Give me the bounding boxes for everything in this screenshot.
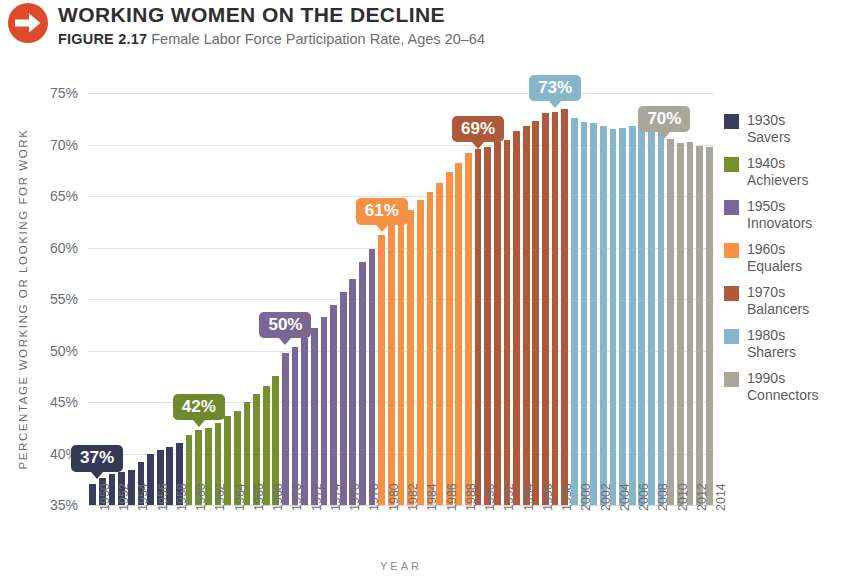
x-axis-tick-label: 1958 [175, 483, 189, 511]
legend-cohort: Balancers [747, 301, 809, 318]
x-axis-tick-label: 2004 [618, 483, 632, 511]
callout-pointer [91, 472, 103, 479]
x-axis-tick-label: 1988 [464, 483, 478, 511]
bar [658, 129, 665, 505]
value-callout: 37% [71, 445, 123, 472]
legend-item-savers[interactable]: 1930sSavers [724, 112, 842, 146]
callout-pointer [658, 132, 670, 139]
x-axis-tick-label: 1982 [406, 483, 420, 511]
legend-item-equalers[interactable]: 1960sEqualers [724, 241, 842, 275]
y-axis-tick-label: 70% [50, 137, 78, 153]
bar [484, 147, 491, 505]
x-axis-tick-label: 1956 [156, 483, 170, 511]
legend-swatch-icon [724, 286, 739, 301]
arrow-right-glyph [8, 3, 48, 43]
bar [552, 112, 559, 505]
legend-decade: 1960s [747, 241, 802, 258]
bar [600, 126, 607, 505]
bar [349, 279, 356, 505]
legend-decade: 1980s [747, 327, 796, 344]
x-axis-tick-label: 1986 [445, 483, 459, 511]
callout-pointer [472, 142, 484, 149]
bar [398, 218, 405, 505]
figure-subtitle: FIGURE 2.17 Female Labor Force Participa… [58, 31, 485, 47]
x-axis-tick-label: 1966 [252, 483, 266, 511]
x-axis-tick-label: 2008 [656, 483, 670, 511]
legend-swatch-icon [724, 329, 739, 344]
bar [475, 149, 482, 505]
chart-plot-area: 35%40%45%50%55%60%65%70%75% 195019521954… [88, 93, 714, 505]
legend-item-label: 1950sInnovators [747, 198, 812, 232]
bar [436, 183, 443, 505]
legend-swatch-icon [724, 243, 739, 258]
x-axis-tick-label: 1996 [541, 483, 555, 511]
y-axis-tick-label: 65% [50, 188, 78, 204]
bar [89, 484, 96, 505]
bar [369, 249, 376, 505]
legend-decade: 1990s [747, 370, 819, 387]
bar [388, 225, 395, 505]
x-axis-tick-label: 1992 [502, 483, 516, 511]
callout-pointer [193, 420, 205, 427]
callout-pointer [279, 338, 291, 345]
x-axis-tick-label: 1980 [387, 483, 401, 511]
x-axis-tick-label: 2000 [579, 483, 593, 511]
value-callout: 42% [173, 394, 225, 421]
x-axis-tick-label: 1970 [290, 483, 304, 511]
x-axis-tick-label: 1972 [310, 483, 324, 511]
figure-number: FIGURE 2.17 [58, 31, 147, 47]
bar [523, 126, 530, 505]
x-axis-tick-label: 1990 [483, 483, 497, 511]
legend-item-label: 1970sBalancers [747, 284, 809, 318]
bar [629, 126, 636, 505]
legend-item-balancers[interactable]: 1970sBalancers [724, 284, 842, 318]
bar [581, 122, 588, 505]
bar [561, 109, 568, 505]
y-axis-title-text: PERCENTAGE WORKING OR LOOKING FOR WORK [17, 128, 29, 469]
value-callout: 69% [452, 116, 504, 143]
x-axis-tick-label: 1968 [271, 483, 285, 511]
y-axis-tick-label: 75% [50, 85, 78, 101]
value-callout: 70% [638, 106, 690, 133]
legend-swatch-icon [724, 372, 739, 387]
legend-decade: 1940s [747, 155, 808, 172]
bar [504, 140, 511, 505]
legend-item-label: 1930sSavers [747, 112, 791, 146]
bar [427, 192, 434, 505]
legend-decade: 1930s [747, 112, 791, 129]
chart-legend: 1930sSavers1940sAchievers1950sInnovators… [724, 112, 842, 413]
value-callout: 50% [259, 312, 311, 339]
bar [417, 200, 424, 505]
y-axis-title: PERCENTAGE WORKING OR LOOKING FOR WORK [14, 93, 32, 505]
legend-item-label: 1960sEqualers [747, 241, 802, 275]
bar [321, 317, 328, 505]
bar [542, 113, 549, 505]
legend-item-sharers[interactable]: 1980sSharers [724, 327, 842, 361]
legend-item-label: 1940sAchievers [747, 155, 808, 189]
x-axis-tick-label: 1978 [367, 483, 381, 511]
bar [465, 153, 472, 505]
legend-cohort: Savers [747, 129, 791, 146]
bar [494, 142, 501, 505]
legend-item-connectors[interactable]: 1990sConnectors [724, 370, 842, 404]
x-axis-tick-label: 2014 [714, 483, 728, 511]
value-callout: 61% [356, 198, 408, 225]
bar [455, 163, 462, 505]
legend-item-achievers[interactable]: 1940sAchievers [724, 155, 842, 189]
bar [687, 142, 694, 505]
y-axis-tick-label: 55% [50, 291, 78, 307]
x-axis-tick-label: 2006 [637, 483, 651, 511]
bar [677, 143, 684, 505]
bar [340, 292, 347, 505]
x-axis-tick-label: 1960 [194, 483, 208, 511]
page-title: WORKING WOMEN ON THE DECLINE [58, 3, 445, 27]
bar [311, 328, 318, 505]
legend-decade: 1970s [747, 284, 809, 301]
legend-swatch-icon [724, 114, 739, 129]
gridline [88, 93, 714, 94]
bar [590, 123, 597, 505]
value-callout: 73% [529, 75, 581, 102]
legend-item-innovators[interactable]: 1950sInnovators [724, 198, 842, 232]
legend-decade: 1950s [747, 198, 812, 215]
callout-pointer [376, 225, 388, 232]
